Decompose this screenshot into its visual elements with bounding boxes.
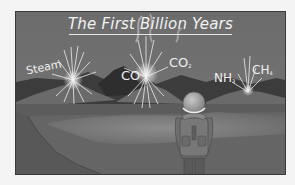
label-co: CO	[121, 69, 140, 82]
label-co2: CO2	[169, 56, 192, 69]
label-nh3: NH3	[214, 72, 235, 84]
illustration-frame: The First Billion Years Steam CO CO2 NH3…	[15, 11, 286, 175]
title-underline	[69, 34, 232, 35]
landscape-scene	[16, 12, 285, 174]
illustration-title: The First Billion Years	[16, 15, 285, 33]
label-ch4: CH4	[252, 64, 273, 76]
